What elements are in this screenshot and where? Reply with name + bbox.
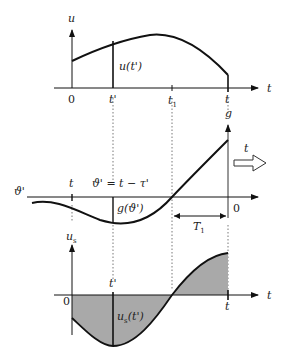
u-curve <box>72 35 228 75</box>
tick-0: 0 <box>68 93 75 106</box>
tick-t-bottom: t <box>225 300 230 313</box>
shift-arrow-label: t <box>244 142 249 155</box>
u-axis-label: u <box>68 12 75 25</box>
tick-tprime: t' <box>109 93 116 106</box>
T1-label: T1 <box>193 220 205 235</box>
bottom-panel: us t 0 t' t us(t') <box>54 230 272 346</box>
t-axis-label-bottom: t <box>267 289 272 302</box>
origin-0-bottom: 0 <box>63 295 70 308</box>
middle-panel: g ϑ' t ϑ' = t − τ' g(ϑ') 0 T1 t <box>14 107 266 235</box>
top-panel: u t u(t') 0 t' t1 t <box>54 12 272 109</box>
us-axis-label: us <box>66 230 77 245</box>
tick-t-middle: t <box>69 177 74 190</box>
u-tprime-label: u(t') <box>119 60 142 73</box>
shift-arrow-icon <box>234 155 266 171</box>
tick-t: t <box>225 93 230 106</box>
convolution-diagram: u t u(t') 0 t' t1 t g ϑ' t ϑ' = t − τ' g… <box>0 0 285 360</box>
theta-prime-label: ϑ' <box>14 185 25 198</box>
tick-t1: t1 <box>168 94 177 109</box>
g-axis-label: g <box>225 107 232 120</box>
origin-0-middle: 0 <box>233 202 240 215</box>
us-tprime-label: us(t') <box>117 310 144 325</box>
us-filled-area <box>72 253 228 346</box>
t-axis-label-top: t <box>267 82 272 95</box>
g-theta-label: g(ϑ') <box>117 202 144 215</box>
tick-tprime-bottom: t' <box>109 277 116 290</box>
equation-label: ϑ' = t − τ' <box>92 177 149 190</box>
